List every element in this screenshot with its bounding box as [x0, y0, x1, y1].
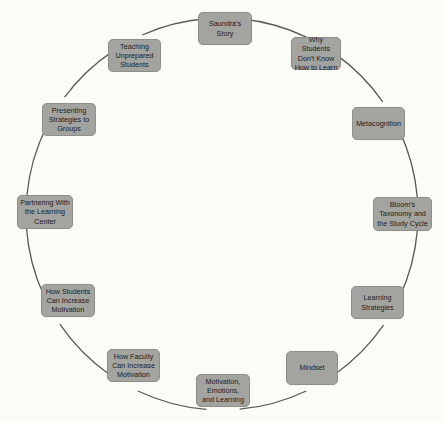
- node-how-students-increase-motivation: How Students Can Increase Motivation: [41, 284, 95, 317]
- node-label: How Students Can Increase Motivation: [46, 287, 91, 315]
- node-how-faculty-increase-motivation: How Faculty Can Increase Motivation: [107, 349, 160, 382]
- node-blooms-taxonomy: Bloom's Taxonomy and the Study Cycle: [373, 197, 432, 231]
- node-label: Why Students Don't Know How to Learn: [294, 35, 338, 72]
- node-partnering-learning-center: Partnering With the Learning Center: [17, 195, 73, 229]
- node-label: Presenting Strategies to Groups: [49, 106, 89, 134]
- connector-arc: [400, 231, 417, 297]
- connector-lines: [27, 19, 418, 410]
- node-label: Learning Strategies: [361, 293, 393, 311]
- node-teaching-unprepared-students: Teaching Unprepared Students: [108, 39, 161, 72]
- node-label: Teaching Unprepared Students: [116, 42, 154, 70]
- node-motivation-emotions-learning: Motivation, Emotions, and Learning: [196, 374, 250, 407]
- node-label: Bloom's Taxonomy and the Study Cycle: [377, 200, 427, 228]
- node-label: Motivation, Emotions, and Learning: [202, 377, 244, 405]
- connector-arc: [60, 324, 109, 374]
- node-presenting-strategies-groups: Presenting Strategies to Groups: [42, 103, 96, 136]
- connector-arc: [27, 126, 47, 196]
- node-metacognition: Metacognition: [352, 107, 405, 140]
- node-label: How Faculty Can Increase Motivation: [112, 352, 155, 380]
- connector-arc: [399, 131, 417, 198]
- connector-arc: [65, 51, 113, 97]
- node-learning-strategies: Learning Strategies: [351, 286, 404, 319]
- connector-arc: [335, 54, 383, 102]
- connector-arc: [335, 325, 384, 374]
- node-saundras-story: Saundra's Story: [198, 12, 252, 45]
- node-mindset: Mindset: [286, 351, 338, 385]
- node-label: Partnering With the Learning Center: [20, 198, 70, 226]
- node-why-students-dont-know: Why Students Don't Know How to Learn: [291, 37, 341, 70]
- node-label: Saundra's Story: [201, 19, 249, 37]
- node-label: Metacognition: [356, 119, 401, 128]
- node-label: Mindset: [299, 363, 324, 372]
